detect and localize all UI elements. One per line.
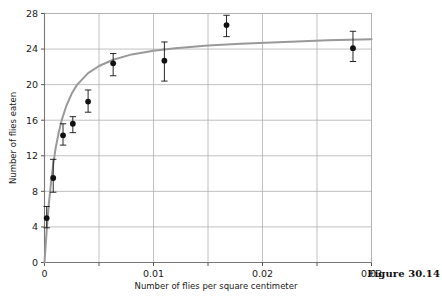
y-tick-label: 4 — [32, 221, 38, 232]
x-tick-label: 0.01 — [143, 268, 164, 279]
axis-ticks — [41, 14, 372, 267]
x-axis-title: Number of flies per square centimeter — [135, 281, 298, 291]
x-tick-label: 0 — [41, 268, 47, 279]
y-tick-label: 24 — [26, 43, 38, 54]
data-point-marker — [70, 121, 76, 127]
data-point-marker — [85, 99, 91, 105]
tick-labels: 048121620242800.010.020.03 — [26, 8, 382, 279]
x-tick-label: 0.02 — [252, 268, 273, 279]
y-tick-label: 20 — [26, 79, 38, 90]
figure-caption: Figure 30.14 — [367, 268, 440, 279]
y-tick-label: 8 — [32, 186, 38, 197]
data-point-marker — [60, 132, 66, 138]
data-point-marker — [50, 175, 56, 181]
y-tick-label: 0 — [32, 257, 38, 268]
data-point-marker — [44, 215, 50, 221]
y-axis-title: Number of flies eaten — [8, 92, 18, 184]
figure-container: 048121620242800.010.020.03 Number of fli… — [0, 0, 442, 297]
grid-lines — [45, 14, 372, 263]
data-point-marker — [110, 60, 116, 66]
data-point-marker — [224, 22, 230, 28]
data-point-marker — [162, 58, 168, 64]
functional-response-chart: 048121620242800.010.020.03 Number of fli… — [0, 0, 442, 297]
data-point-marker — [350, 45, 356, 51]
y-tick-label: 12 — [26, 150, 38, 161]
y-tick-label: 16 — [26, 115, 38, 126]
y-tick-label: 28 — [26, 8, 38, 19]
